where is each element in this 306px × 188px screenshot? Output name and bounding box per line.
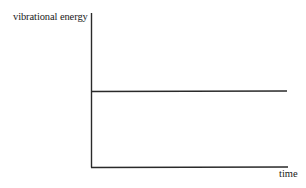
energy-line: [92, 91, 288, 92]
chart-plot-area: [0, 0, 306, 188]
x-axis-label: time: [279, 168, 298, 179]
chart-container: vibrational energy time: [0, 0, 306, 188]
y-axis-label: vibrational energy: [13, 11, 88, 22]
x-axis: [91, 167, 288, 168]
